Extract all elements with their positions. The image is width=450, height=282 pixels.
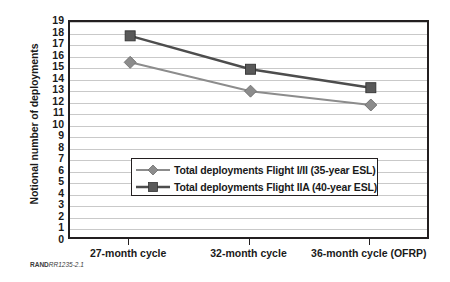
x-axis-tick-label: 36-month cycle (OFRP): [311, 247, 427, 259]
y-axis-tick-label: 15: [40, 61, 64, 71]
x-axis-tick-mark: [128, 239, 129, 245]
source-id: RR1235-2.1: [49, 261, 84, 268]
figure-source-note: RANDRR1235-2.1: [30, 261, 84, 268]
y-axis-tick-label: 13: [40, 84, 64, 94]
y-axis-tick-label: 8: [40, 142, 64, 152]
y-axis-tick-label: 6: [40, 165, 64, 175]
y-axis-tick-label: 16: [40, 50, 64, 60]
chart-legend: Total deployments Flight I/II (35-year E…: [131, 158, 378, 196]
y-axis-tick-label: 10: [40, 119, 64, 129]
y-axis-tick-label: 12: [40, 96, 64, 106]
data-point-diamond-marker: [245, 85, 257, 97]
y-axis-tick-label: 2: [40, 211, 64, 221]
y-axis-tick-label: 7: [40, 153, 64, 163]
y-axis-tick-labels: 012345678910111213141516171819: [40, 20, 64, 239]
data-series-layer: [70, 22, 431, 241]
y-axis-tick-label: 4: [40, 188, 64, 198]
data-point-diamond-marker: [365, 99, 377, 111]
x-axis-tick-mark: [249, 239, 250, 245]
y-axis-tick-label: 17: [40, 38, 64, 48]
x-axis-tick-label: 27-month cycle: [90, 247, 166, 259]
source-prefix: RAND: [30, 261, 49, 268]
chart-figure: Notional number of deployments 012345678…: [0, 0, 450, 282]
legend-item-flight-i-ii: Total deployments Flight I/II (35-year E…: [136, 161, 373, 178]
y-axis-tick-label: 1: [40, 222, 64, 232]
legend-key-square-icon: [136, 180, 170, 194]
y-axis-tick-label: 14: [40, 73, 64, 83]
y-axis-tick-label: 5: [40, 176, 64, 186]
legend-item-flight-iia: Total deployments Flight IIA (40-year ES…: [136, 178, 373, 195]
legend-key-diamond-icon: [136, 163, 170, 177]
x-axis-tick-labels: 27-month cycle32-month cycle36-month cyc…: [68, 247, 429, 267]
legend-label-flight-iia: Total deployments Flight IIA (40-year ES…: [170, 181, 377, 193]
data-point-diamond-marker: [124, 56, 136, 68]
series-line: [130, 36, 371, 88]
y-axis-title: Notional number of deployments: [28, 24, 40, 224]
y-axis-tick-label: 9: [40, 130, 64, 140]
plot-area: [68, 20, 429, 239]
data-point-square-marker: [366, 83, 376, 93]
y-axis-tick-label: 18: [40, 27, 64, 37]
data-point-square-marker: [125, 31, 135, 41]
legend-label-flight-i-ii: Total deployments Flight I/II (35-year E…: [170, 164, 376, 176]
y-axis-tick-label: 3: [40, 199, 64, 209]
y-axis-tick-label: 11: [40, 107, 64, 117]
y-axis-tick-label: 19: [40, 15, 64, 25]
y-axis-tick-label: 0: [40, 234, 64, 244]
x-axis-tick-mark: [369, 239, 370, 245]
x-axis-tick-label: 32-month cycle: [210, 247, 286, 259]
data-point-square-marker: [246, 64, 256, 74]
